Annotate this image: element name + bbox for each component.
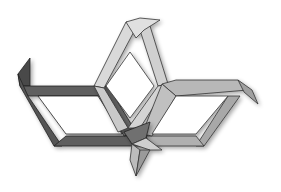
- geometric-figure: [0, 0, 281, 192]
- right-medium-frame: [142, 80, 258, 146]
